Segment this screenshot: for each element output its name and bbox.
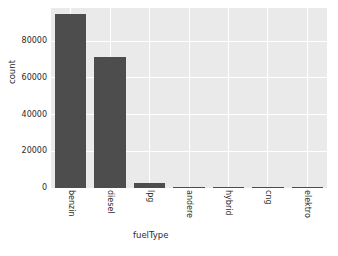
figure-canvas: 020000400006000080000 benzindiesellpgand… — [0, 0, 338, 256]
bar-diesel — [94, 57, 126, 188]
y-tick-label: 80000 — [22, 37, 47, 45]
bar-cng — [252, 187, 284, 188]
y-tick-label: 0 — [42, 184, 47, 192]
plot-area — [51, 8, 327, 188]
x-axis-tick-labels: benzindiesellpganderehybridcngelektro — [51, 190, 327, 238]
x-axis-title: fuelType — [133, 230, 169, 240]
x-tick-label: elektro — [303, 190, 311, 218]
bar-andere — [173, 187, 205, 188]
x-tick-label: benzin — [67, 190, 75, 217]
x-tick-label: lpg — [146, 190, 154, 202]
y-axis-tick-labels: 020000400006000080000 — [0, 0, 47, 256]
bar-series — [51, 8, 327, 188]
y-tick-label: 20000 — [22, 147, 47, 155]
x-tick-label: diesel — [106, 190, 114, 214]
bar-lpg — [134, 183, 166, 189]
x-tick-label: cng — [264, 190, 272, 205]
bar-benzin — [55, 14, 87, 188]
y-axis-title: count — [7, 60, 17, 84]
y-tick-label: 40000 — [22, 111, 47, 119]
x-tick-label: andere — [185, 190, 193, 218]
x-tick-label: hybrid — [224, 190, 232, 215]
bar-hybrid — [213, 187, 245, 188]
bar-elektro — [292, 187, 324, 188]
y-tick-label: 60000 — [22, 74, 47, 82]
